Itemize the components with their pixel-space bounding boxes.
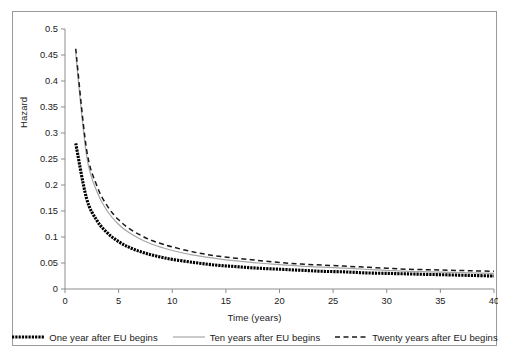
- x-tick-label: 20: [274, 296, 284, 306]
- x-tick-label: 10: [167, 296, 177, 306]
- y-axis-title: Hazard: [18, 97, 29, 128]
- y-tick-label: 0.15: [40, 206, 58, 216]
- legend-swatch-twenty-years: [334, 332, 368, 342]
- y-tick-label: 0.4: [45, 76, 58, 86]
- chart-legend: One year after EU begins Ten years after…: [17, 330, 492, 344]
- series-line-0: [76, 143, 494, 276]
- x-axis-title: Time (years): [13, 312, 496, 323]
- legend-item-ten-years: Ten years after EU begins: [172, 332, 321, 343]
- series-line-1: [76, 54, 494, 273]
- x-tick-label: 0: [62, 296, 67, 306]
- x-tick-label: 25: [328, 296, 338, 306]
- legend-item-twenty-years: Twenty years after EU begins: [334, 332, 497, 343]
- legend-label-twenty-years: Twenty years after EU begins: [372, 332, 497, 343]
- y-tick-label: 0.1: [45, 232, 58, 242]
- y-tick-label: 0.25: [40, 154, 58, 164]
- x-tick-label: 5: [116, 296, 121, 306]
- legend-item-one-year: One year after EU begins: [11, 332, 157, 343]
- x-tick-label: 30: [382, 296, 392, 306]
- y-tick-label: 0.2: [45, 180, 58, 190]
- y-tick-label: 0.35: [40, 102, 58, 112]
- figure-frame: 00.050.10.150.20.250.30.350.40.450.50510…: [12, 11, 497, 346]
- x-tick-label: 15: [221, 296, 231, 306]
- y-tick-label: 0.5: [45, 24, 58, 34]
- y-tick-label: 0.45: [40, 50, 58, 60]
- x-tick-label: 35: [435, 296, 445, 306]
- legend-label-ten-years: Ten years after EU begins: [210, 332, 321, 343]
- hazard-line-chart: 00.050.10.150.20.250.30.350.40.450.50510…: [13, 12, 498, 312]
- legend-swatch-one-year: [11, 332, 45, 342]
- y-tick-label: 0.3: [45, 128, 58, 138]
- legend-swatch-ten-years: [172, 332, 206, 342]
- plot-area: 00.050.10.150.20.250.30.350.40.450.50510…: [13, 12, 496, 284]
- x-tick-label: 40: [489, 296, 498, 306]
- y-tick-label: 0: [53, 284, 58, 294]
- y-tick-label: 0.05: [40, 258, 58, 268]
- legend-label-one-year: One year after EU begins: [49, 332, 157, 343]
